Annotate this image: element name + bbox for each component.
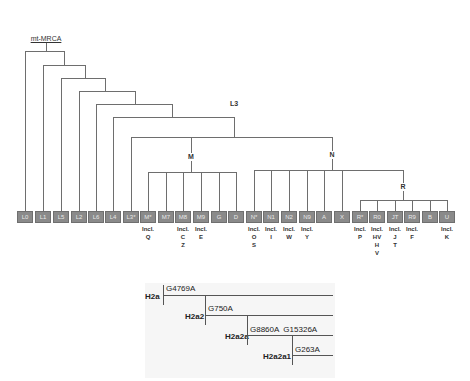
incl-prefix: Incl.	[406, 225, 418, 233]
branch-v	[342, 170, 343, 211]
included-haplogroups: Incl.Q	[142, 225, 154, 241]
included-haplogroups: Incl.K	[441, 225, 453, 241]
branch-v	[307, 170, 308, 211]
branch-v	[183, 172, 184, 211]
haplogroup-box: M*	[140, 211, 156, 223]
haplogroup-box: L6	[88, 211, 104, 223]
branch-h	[96, 104, 173, 105]
haplogroup-box: N9	[299, 211, 315, 223]
included-haplogroups: Incl.E	[195, 225, 207, 241]
branch-v	[105, 78, 106, 91]
phylogenetic-tree-figure: mt-MRCA L3 M N R	[0, 0, 470, 381]
haplogroup-box: D	[228, 211, 244, 223]
node-label-L3: L3	[229, 100, 239, 108]
haplogroup-box: A	[316, 211, 332, 223]
included-haplogroup: T	[389, 241, 401, 249]
incl-prefix: Incl.	[265, 225, 277, 233]
incl-prefix: Incl.	[301, 225, 313, 233]
haplogroup-box: R0	[369, 211, 385, 223]
subtree-v	[292, 335, 293, 365]
subtree-mutation-H2a2: G750A	[208, 304, 233, 313]
branch-h	[113, 117, 235, 118]
included-haplogroup: E	[195, 233, 207, 241]
branch-v-to-L3	[234, 117, 235, 137]
included-haplogroup: S	[248, 241, 260, 249]
h2a-subtree: H2a G4769A H2a2 G750A H2a2a G8860A G1532…	[145, 283, 335, 378]
branch-h-N	[254, 170, 404, 171]
branch-v	[395, 200, 396, 211]
root-label: mt-MRCA	[31, 35, 62, 43]
haplogroup-box: B	[422, 211, 438, 223]
included-haplogroup: O	[248, 233, 260, 241]
haplogroup-box: N*	[246, 211, 262, 223]
haplogroup-box: M8	[175, 211, 191, 223]
included-haplogroup: K	[441, 233, 453, 241]
haplogroup-box: L5	[53, 211, 69, 223]
included-haplogroups: Incl.JT	[389, 225, 401, 249]
subtree-node-H2a: H2a	[145, 292, 160, 301]
incl-prefix: Incl.	[195, 225, 207, 233]
branch-v	[271, 170, 272, 211]
subtree-h	[292, 355, 333, 356]
haplogroup-box: G	[211, 211, 227, 223]
branch-v-L0	[25, 51, 26, 211]
incl-prefix: Incl.	[177, 225, 189, 233]
incl-prefix: Incl.	[371, 225, 383, 233]
branch-v-L5	[61, 78, 62, 211]
incl-prefix: Incl.	[389, 225, 401, 233]
node-label-N: N	[328, 151, 335, 159]
subtree-v	[205, 295, 206, 325]
included-haplogroup: C	[177, 233, 189, 241]
root-stem	[46, 43, 47, 51]
included-haplogroup: Z	[177, 241, 189, 249]
included-haplogroup: H	[371, 241, 383, 249]
haplogroup-box: N1	[263, 211, 279, 223]
branch-v-L1	[43, 65, 44, 211]
incl-prefix: Incl.	[142, 225, 154, 233]
included-haplogroups: Incl.Y	[301, 225, 313, 241]
included-haplogroup: Q	[142, 233, 154, 241]
included-haplogroup: F	[406, 233, 418, 241]
branch-v	[377, 200, 378, 211]
branch-h	[61, 78, 106, 79]
branch-v	[201, 172, 202, 211]
branch-v-L6	[96, 104, 97, 211]
included-haplogroups: Incl.I	[265, 225, 277, 241]
subtree-h	[205, 315, 333, 316]
subtree-node-H2a2a1: H2a2a1	[263, 352, 291, 361]
branch-v	[64, 51, 65, 65]
haplogroup-box: L0	[17, 211, 33, 223]
included-haplogroup: HV	[371, 233, 383, 241]
branch-v-L2	[79, 91, 80, 211]
incl-prefix: Incl.	[441, 225, 453, 233]
branch-h	[25, 51, 65, 52]
included-haplogroups: Incl.F	[406, 225, 418, 241]
haplogroup-box: R*	[352, 211, 368, 223]
haplogroup-box: U	[439, 211, 455, 223]
haplogroup-box: L4	[105, 211, 121, 223]
included-haplogroup: P	[354, 233, 366, 241]
branch-v	[166, 172, 167, 211]
branch-h	[43, 65, 86, 66]
branch-v	[85, 65, 86, 78]
incl-prefix: Incl.	[354, 225, 366, 233]
included-haplogroup: V	[371, 249, 383, 257]
branch-v-L4	[113, 117, 114, 211]
branch-h	[79, 91, 135, 92]
subtree-mutation-H2a2a: G8860A G15326A	[250, 325, 317, 334]
subtree-h	[247, 335, 333, 336]
subtree-node-H2a2: H2a2	[185, 312, 204, 321]
branch-v	[430, 200, 431, 211]
included-haplogroups: Incl.W	[283, 225, 295, 241]
incl-prefix: Incl.	[248, 225, 260, 233]
included-haplogroup: W	[283, 233, 295, 241]
haplogroup-box: JT	[387, 211, 403, 223]
branch-h-M	[148, 172, 237, 173]
subtree-mutation-H2a2a1: G263A	[295, 345, 320, 354]
incl-prefix: Incl.	[283, 225, 295, 233]
subtree-node-H2a2a: H2a2a	[225, 332, 249, 341]
subtree-mutation-H2a: G4769A	[166, 284, 195, 293]
haplogroup-box: L3*	[123, 211, 139, 223]
haplogroup-box: N2	[281, 211, 297, 223]
included-haplogroups: Incl.CZ	[177, 225, 189, 249]
